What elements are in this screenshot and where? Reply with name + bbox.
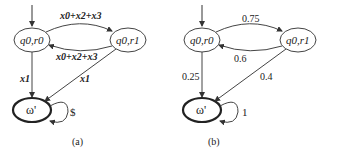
state-label-final: ω' <box>26 103 36 117</box>
state-label-q0r1: q0,r1 <box>286 34 310 46</box>
edge-label-s1-final: 0.4 <box>260 71 273 82</box>
caption-b: (b) <box>208 136 220 148</box>
edge-label-s0-final: x1 <box>19 73 30 84</box>
edge-s0-s1 <box>46 24 112 32</box>
edge-s1-s0 <box>49 45 112 51</box>
state-label-q0r0: q0,r0 <box>20 34 44 46</box>
edge-label-s0-final: 0.25 <box>182 71 200 82</box>
state-label-q0r1: q0,r1 <box>116 34 140 46</box>
edge-s0-s1 <box>216 24 282 32</box>
edge-label-s0-s1: x0+x2+x3 <box>59 10 101 21</box>
diagram-b: q0,r0 q0,r1 ω' 0.75 0.6 0.25 0.4 1 (b) <box>182 5 316 148</box>
edge-label-s1-final: x1 <box>79 73 90 84</box>
edge-s1-final <box>215 49 286 101</box>
edge-final-loop <box>50 102 68 122</box>
edge-label-s1-s0: x0+x2+x3 <box>55 51 97 62</box>
state-label-final: ω' <box>196 103 206 117</box>
diagram-a: q0,r0 q0,r1 ω' x0+x2+x3 x0+x2+x3 x1 x1 $… <box>13 5 146 148</box>
state-label-q0r0: q0,r0 <box>190 34 214 46</box>
edge-label-final-loop: $ <box>70 106 76 118</box>
diagram-canvas: q0,r0 q0,r1 ω' x0+x2+x3 x0+x2+x3 x1 x1 $… <box>0 0 340 156</box>
edge-s1-s0 <box>219 45 282 51</box>
edge-label-final-loop: 1 <box>242 106 248 118</box>
edge-final-loop <box>220 102 238 122</box>
edge-label-s1-s0: 0.6 <box>234 53 247 64</box>
caption-a: (a) <box>72 136 83 148</box>
edge-label-s0-s1: 0.75 <box>242 13 260 24</box>
